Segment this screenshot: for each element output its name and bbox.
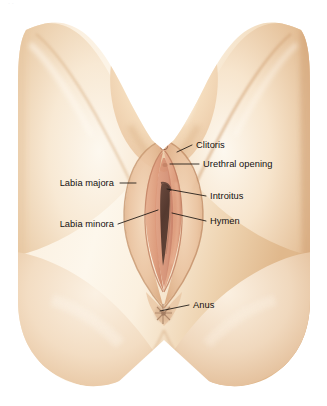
label-clitoris: Clitoris <box>196 140 225 150</box>
label-labia-majora: Labia majora <box>60 178 115 188</box>
label-urethral-opening: Urethral opening <box>203 159 273 169</box>
anatomy-illustration: Clitoris Urethral opening Introitus Hyme… <box>0 0 327 406</box>
label-labia-minora: Labia minora <box>60 219 115 229</box>
bottom-right-mask <box>287 356 327 406</box>
label-introitus: Introitus <box>210 191 244 201</box>
anatomy-figure: Clitoris Urethral opening Introitus Hyme… <box>0 0 327 406</box>
label-anus: Anus <box>193 300 215 310</box>
bottom-left-mask <box>0 356 40 406</box>
label-hymen: Hymen <box>210 216 240 226</box>
top-crop-artifact: · · <box>8 0 14 6</box>
mons-highlight <box>140 47 192 122</box>
